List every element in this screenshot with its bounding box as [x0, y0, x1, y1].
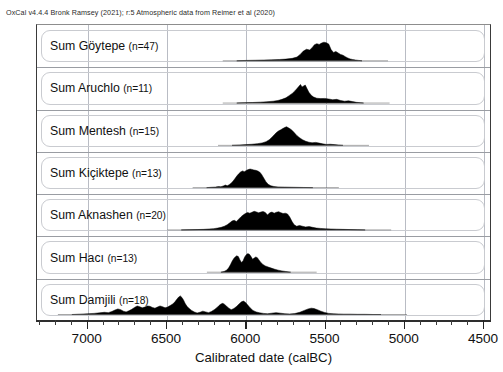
major-tick-5500 [325, 320, 326, 329]
minor-tick-5700 [293, 320, 294, 325]
minor-tick-5300 [356, 320, 357, 325]
minor-tick-6300 [198, 320, 199, 325]
minor-tick-7200 [55, 320, 56, 325]
major-tick-7000 [87, 320, 88, 329]
minor-tick-7100 [71, 320, 72, 325]
minor-tick-6400 [182, 320, 183, 325]
minor-tick-6200 [214, 320, 215, 325]
x-tick-label-5000: 5000 [389, 331, 419, 346]
minor-tick-4600 [467, 320, 468, 325]
x-tick-label-4500: 4500 [468, 331, 498, 346]
distribution-curve-kiçiktepe [207, 169, 313, 188]
major-tick-4500 [483, 320, 484, 329]
major-tick-5000 [404, 320, 405, 329]
distribution-curve-aruchlo [237, 84, 364, 103]
distribution-curve-hacı [221, 254, 291, 273]
x-tick-label-6000: 6000 [230, 331, 260, 346]
distribution-curve-damjili [72, 296, 381, 315]
oxcal-plot-page: OxCal v4.4.4 Bronk Ramsey (2021); r:5 At… [0, 0, 503, 372]
minor-tick-4800 [436, 320, 437, 325]
plot-frame: Sum Göytepe (n=47)Sum Aruchlo (n=11)Sum … [36, 24, 491, 320]
minor-tick-5900 [261, 320, 262, 325]
minor-tick-7300 [39, 320, 40, 325]
distribution-curve-göytepe [237, 42, 362, 61]
minor-tick-6900 [103, 320, 104, 325]
x-tick-label-5500: 5500 [309, 331, 339, 346]
oxcal-credit-line: OxCal v4.4.4 Bronk Ramsey (2021); r:5 At… [6, 8, 275, 17]
minor-tick-6800 [118, 320, 119, 325]
minor-tick-6700 [134, 320, 135, 325]
minor-tick-4700 [451, 320, 452, 325]
x-axis-title: Calibrated date (calBC) [36, 350, 491, 365]
minor-tick-5200 [372, 320, 373, 325]
major-tick-6000 [245, 320, 246, 329]
distribution-curve-mentesh [232, 127, 343, 146]
minor-tick-4900 [420, 320, 421, 325]
x-axis-line [36, 320, 491, 322]
minor-tick-5100 [388, 320, 389, 325]
x-tick-label-6500: 6500 [151, 331, 181, 346]
minor-tick-6100 [229, 320, 230, 325]
x-tick-label-7000: 7000 [72, 331, 102, 346]
minor-tick-6600 [150, 320, 151, 325]
minor-tick-5800 [277, 320, 278, 325]
minor-tick-5600 [309, 320, 310, 325]
distribution-curve-aknashen [181, 211, 365, 230]
distribution-layer [37, 25, 492, 321]
major-tick-6500 [166, 320, 167, 329]
minor-tick-5400 [340, 320, 341, 325]
